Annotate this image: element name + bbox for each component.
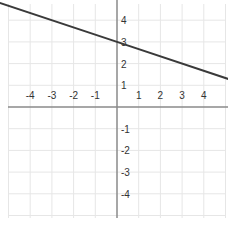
y-tick-label: -2	[121, 145, 130, 156]
x-tick-label: -1	[91, 90, 100, 101]
y-tick-label: -4	[121, 189, 130, 200]
x-tick-label: 2	[158, 90, 164, 101]
y-tick-label: 1	[121, 80, 127, 91]
x-tick-label: -2	[69, 90, 78, 101]
y-tick-label: -3	[121, 167, 130, 178]
x-tick-label: 4	[201, 90, 207, 101]
y-tick-label: -1	[121, 124, 130, 135]
x-tick-label: 1	[136, 90, 142, 101]
x-tick-label: -3	[47, 90, 56, 101]
y-tick-label: 2	[121, 59, 127, 70]
y-tick-label: 3	[121, 37, 127, 48]
x-tick-label: 3	[179, 90, 185, 101]
y-tick-label: 4	[121, 15, 127, 26]
data-line	[0, 3, 228, 80]
x-tick-label: -4	[26, 90, 35, 101]
line-graph: -4-3-2-112344321-1-2-3-4	[0, 0, 228, 230]
